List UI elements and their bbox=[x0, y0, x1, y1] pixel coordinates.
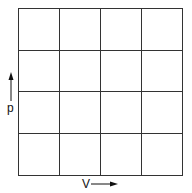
p-axis-arrow-icon bbox=[9, 72, 14, 101]
v-axis-arrow-icon bbox=[91, 182, 118, 187]
p-axis-label: p bbox=[7, 102, 14, 114]
v-axis-label: V bbox=[82, 178, 90, 190]
grid bbox=[19, 9, 183, 176]
pv-grid-diagram bbox=[0, 0, 192, 193]
